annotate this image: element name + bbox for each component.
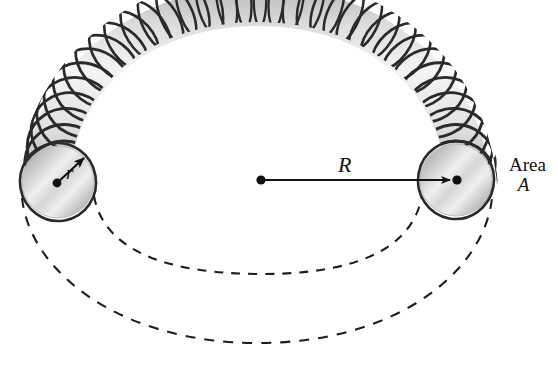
tube-center-dot (452, 175, 461, 184)
area-label-word: Area (509, 155, 546, 175)
dashed-arc-outer (22, 198, 492, 343)
area-label-symbol: A (509, 175, 546, 195)
major-radius-label: R (338, 152, 351, 178)
hidden-rear-arcs (22, 196, 492, 343)
toroid-figure: r R Area A (0, 0, 558, 369)
dashed-arc-inner (94, 196, 422, 274)
area-label: Area A (509, 155, 546, 195)
torus-center-dot (256, 175, 265, 184)
left-cap-center-dot (53, 179, 62, 188)
toroid-diagram-canvas (0, 0, 558, 369)
minor-radius-label: r (66, 162, 73, 184)
